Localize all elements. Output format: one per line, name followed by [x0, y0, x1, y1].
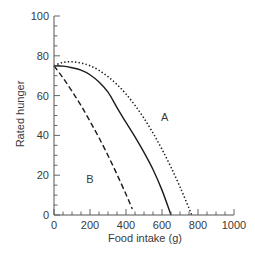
y-tick-label: 20: [37, 169, 49, 181]
y-tick-label: 100: [31, 10, 49, 22]
annotation-b: B: [86, 173, 93, 185]
x-tick-label: 800: [189, 219, 207, 231]
series-dashed-line: [54, 66, 132, 209]
y-tick-label: 60: [37, 90, 49, 102]
series-dotted-line: [54, 62, 192, 215]
series-group: [54, 62, 192, 215]
x-tick-label: 400: [117, 219, 135, 231]
y-ticks: 020406080100: [31, 10, 60, 221]
annotation-a: A: [161, 111, 169, 123]
x-tick-label: 0: [51, 219, 57, 231]
series-solid-line: [54, 66, 171, 215]
y-tick-label: 40: [37, 129, 49, 141]
axes-group: 020406080100 02004006008001000: [31, 10, 247, 231]
x-tick-label: 200: [81, 219, 99, 231]
x-tick-label: 1000: [222, 219, 246, 231]
line-chart: 020406080100 02004006008001000 A B Food …: [0, 0, 255, 257]
y-tick-label: 80: [37, 50, 49, 62]
y-tick-label: 0: [43, 209, 49, 221]
x-tick-label: 600: [153, 219, 171, 231]
x-ticks: 02004006008001000: [51, 209, 246, 231]
y-axis-title: Rated hunger: [14, 80, 26, 147]
x-axis-title: Food intake (g): [108, 232, 182, 244]
